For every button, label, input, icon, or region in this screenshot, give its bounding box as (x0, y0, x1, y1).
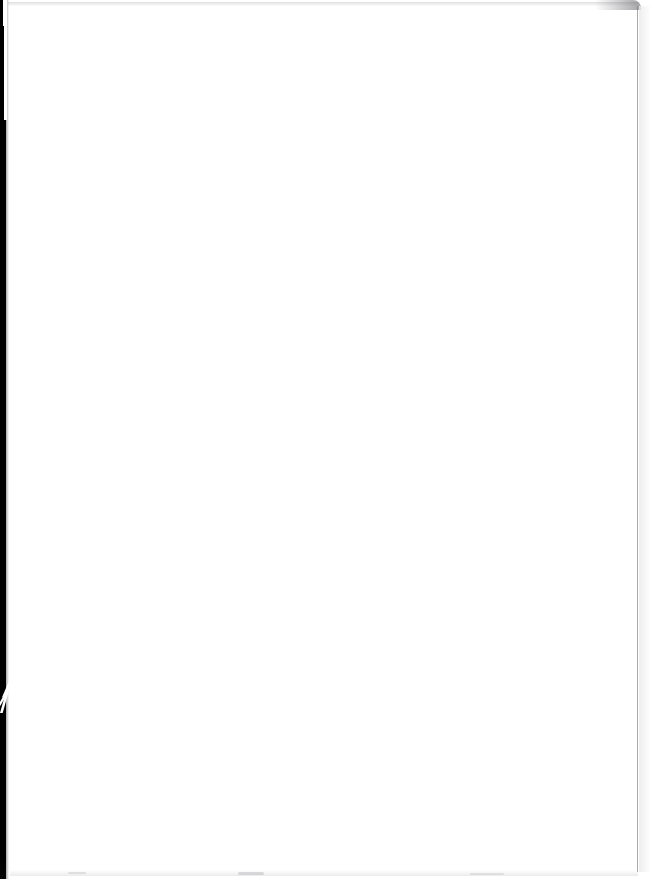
left-gutter-taper-top (3, 0, 7, 26)
bottom-speck (470, 873, 504, 875)
scanned-page: This page is blank. (0, 0, 651, 879)
bottom-smudge-band (10, 870, 638, 876)
top-scan-band (8, 2, 638, 6)
page-content-area: This page is blank. (26, 18, 626, 863)
left-gutter-soft-edge (4, 0, 9, 879)
top-right-corner-shadow (595, 0, 641, 10)
bottom-speck (238, 872, 264, 875)
right-edge-falloff (639, 6, 651, 872)
bottom-speck (68, 872, 86, 874)
